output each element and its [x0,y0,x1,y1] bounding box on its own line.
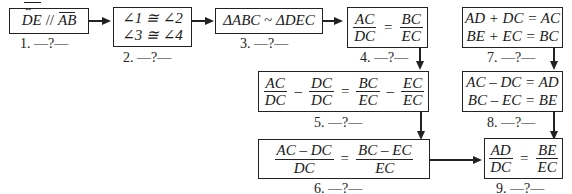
arrow-5-6 [420,112,422,132]
step-4-box: ACDC = BCEC [347,7,428,48]
step-1-label: 1. —?— [20,36,68,52]
arrow-7-8 [553,48,555,62]
step-2-box: ∠1 ≅ ∠2 ∠3 ≅ ∠4 [113,7,192,47]
arrowhead-icon [473,156,482,164]
step-8-label: 8. —?— [487,115,535,131]
step-7-line-1: AD + DC = AC [465,10,560,27]
step-2-line-2: ∠3 ≅ ∠4 [122,27,183,44]
fraction: ECEC [401,75,424,109]
arrowhead-icon [102,17,111,25]
fraction: ACDC [352,11,377,45]
step-2-label: 2. —?— [123,50,171,66]
fraction: BCEC [356,75,379,109]
step-7-line-2: BE + EC = BC [467,28,559,45]
fraction: BCEC [400,11,423,45]
step-6-box: AC – DCDC = BC – ECEC [258,139,430,179]
arrow-4-5 [419,48,421,62]
step-9-label: 9. —?— [496,181,544,194]
arrow-6-9 [430,159,474,161]
step-3-statement: ΔABC ~ ΔDEC [223,12,315,29]
step-8-box: AC – DC = AD BC – EC = BE [462,71,563,112]
step-3-box: ΔABC ~ ΔDEC [215,8,323,34]
arrow-8-9 [553,112,555,132]
parallel-symbol: // [46,12,54,29]
fraction: BEEC [536,142,559,176]
step-5-label: 5. —?— [314,115,362,131]
line-de: DE [22,12,42,29]
step-7-label: 7. —?— [487,50,535,66]
arrowhead-icon [334,17,343,25]
arrow-2-3 [192,20,206,22]
step-5-box: ACDC – DCDC = BCEC – ECEC [258,71,429,112]
step-7-box: AD + DC = AC BE + EC = BC [462,7,563,48]
fraction: BC – ECEC [356,142,413,176]
arrowhead-icon [205,17,214,25]
fraction: AC – DCDC [275,142,334,176]
arrow-1-2 [89,20,103,22]
step-3-label: 3. —?— [240,36,288,52]
fraction: ADDC [488,142,513,176]
segment-ab: AB [58,12,76,29]
arrowhead-icon [416,61,424,70]
arrowhead-icon [550,61,558,70]
step-8-line-1: AC – DC = AD [466,74,558,91]
fraction: DCDC [309,75,334,109]
step-4-label: 4. —?— [360,50,408,66]
step-8-line-2: BC – EC = BE [468,92,557,109]
fraction: ACDC [263,75,288,109]
step-9-box: ADDC = BEEC [484,138,563,179]
step-2-line-1: ∠1 ≅ ∠2 [122,10,183,27]
step-6-label: 6. —?— [314,181,362,194]
step-1-box: DE // AB [9,8,89,34]
